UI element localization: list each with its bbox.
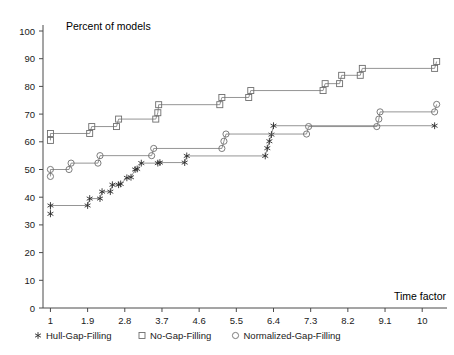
circle-marker (434, 101, 440, 107)
performance-profile-chart: 11.92.83.74.65.56.47.38.29.110 010203040… (0, 0, 454, 355)
square-marker (139, 333, 145, 339)
y-tick-label: 40 (24, 192, 35, 203)
tick-marks (39, 31, 422, 312)
y-tick-label: 100 (19, 26, 35, 37)
x-tick-label: 5.5 (230, 315, 243, 326)
y-tick-label: 70 (24, 109, 35, 120)
x-tick-label: 3.7 (155, 315, 168, 326)
x-tick-label: 4.6 (193, 315, 206, 326)
x-tick-label: 1 (48, 315, 53, 326)
data-series (47, 58, 439, 217)
y-tick-label: 0 (30, 303, 35, 314)
y-tick-label: 50 (24, 164, 35, 175)
y-tick-label: 20 (24, 247, 35, 258)
y-axis-title: Percent of models (66, 20, 151, 32)
series-no-gap-filling (47, 58, 439, 143)
x-tick-label: 2.8 (118, 315, 131, 326)
legend: Hull-Gap-FillingNo-Gap-FillingNormalized… (35, 330, 341, 341)
square-marker (434, 58, 440, 64)
legend-label: Hull-Gap-Filling (46, 330, 111, 341)
chart-canvas: 11.92.83.74.65.56.47.38.29.110 010203040… (0, 0, 454, 355)
x-tick-label: 8.2 (341, 315, 354, 326)
legend-label: Normalized-Gap-Filling (244, 330, 341, 341)
x-tick-label: 10 (417, 315, 428, 326)
y-tick-label: 90 (24, 53, 35, 64)
y-tick-label: 30 (24, 219, 35, 230)
legend-label: No-Gap-Filling (150, 330, 211, 341)
x-axis-title: Time factor (394, 290, 447, 302)
y-tick-label: 10 (24, 275, 35, 286)
y-tick-label: 80 (24, 81, 35, 92)
legend-marker-circle (232, 332, 238, 338)
series-line-2 (50, 104, 436, 176)
series-line-0 (50, 126, 434, 214)
x-tick-label: 7.3 (304, 315, 317, 326)
circle-marker (232, 332, 238, 338)
x-tick-label: 1.9 (81, 315, 94, 326)
legend-marker-square (139, 333, 145, 339)
x-tick-label: 9.1 (378, 315, 391, 326)
x-tick-labels: 11.92.83.74.65.56.47.38.29.110 (48, 315, 428, 326)
y-tick-label: 60 (24, 136, 35, 147)
series-normalized-gap-filling (47, 101, 439, 179)
legend-marker-asterisk (35, 332, 41, 339)
axes (43, 25, 447, 308)
x-tick-label: 6.4 (267, 315, 280, 326)
y-tick-labels: 0102030405060708090100 (19, 26, 35, 314)
series-hull-gap-filling (47, 122, 437, 217)
